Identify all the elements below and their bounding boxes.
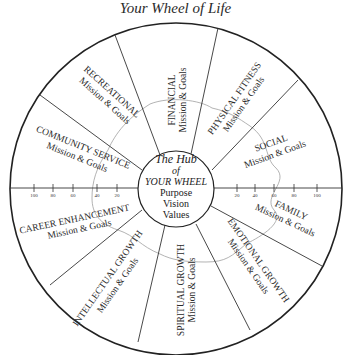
- segment-emotional-growth: EMOTIONAL GROWTH Mission & Goals: [226, 216, 292, 304]
- hub-item-vision: Vision: [163, 198, 189, 209]
- hub-title-line2: of: [172, 165, 181, 176]
- svg-text:Mission & Goals: Mission & Goals: [187, 257, 197, 322]
- svg-text:INTELLECTUAL GROWTH: INTELLECTUAL GROWTH: [71, 228, 145, 328]
- hub-title-line3: YOUR WHEEL: [145, 176, 207, 187]
- svg-text:SPIRITUAL GROWTH: SPIRITUAL GROWTH: [176, 244, 186, 336]
- svg-text:100: 100: [313, 193, 321, 198]
- segment-financial: FINANCIAL Mission & Goals: [167, 67, 188, 132]
- segment-career-enhancement: CAREER ENHANCEMENT Mission & Goals: [18, 202, 130, 240]
- svg-text:40: 40: [253, 193, 259, 198]
- hub-item-values: Values: [163, 209, 190, 220]
- svg-text:60: 60: [272, 193, 278, 198]
- segment-intellectual-growth: INTELLECTUAL GROWTH Mission & Goals: [71, 228, 145, 328]
- svg-text:20: 20: [115, 193, 121, 198]
- svg-text:60: 60: [71, 193, 77, 198]
- svg-text:Mission & Goals: Mission & Goals: [178, 67, 188, 132]
- segment-physical-fitness: PHYSICAL FITNESS Mission & Goals: [206, 60, 267, 136]
- scale-right-labels: 20 40 60 80 100: [235, 193, 322, 198]
- hub-title-line1: The Hub: [155, 152, 197, 166]
- segment-social: SOCIAL Mission & Goals: [243, 133, 308, 170]
- hub-item-purpose: Purpose: [160, 187, 193, 198]
- scale-left-labels: 100 80 60 40 20: [30, 193, 120, 198]
- svg-text:100: 100: [30, 193, 38, 198]
- wheel-diagram: 100 80 60 40 20 20 40 60 80 100 The Hub …: [0, 0, 351, 355]
- svg-text:80: 80: [292, 193, 298, 198]
- segment-spiritual-growth: SPIRITUAL GROWTH Mission & Goals: [176, 244, 197, 336]
- segment-community-service: COMMUNITY SERVICE Mission & Goals: [35, 124, 132, 174]
- svg-text:40: 40: [95, 193, 101, 198]
- svg-text:80: 80: [51, 193, 57, 198]
- svg-text:EMOTIONAL GROWTH: EMOTIONAL GROWTH: [226, 216, 292, 304]
- segment-family: FAMILY Mission & Goals: [254, 198, 317, 238]
- svg-text:FINANCIAL: FINANCIAL: [167, 74, 177, 125]
- svg-text:20: 20: [235, 193, 241, 198]
